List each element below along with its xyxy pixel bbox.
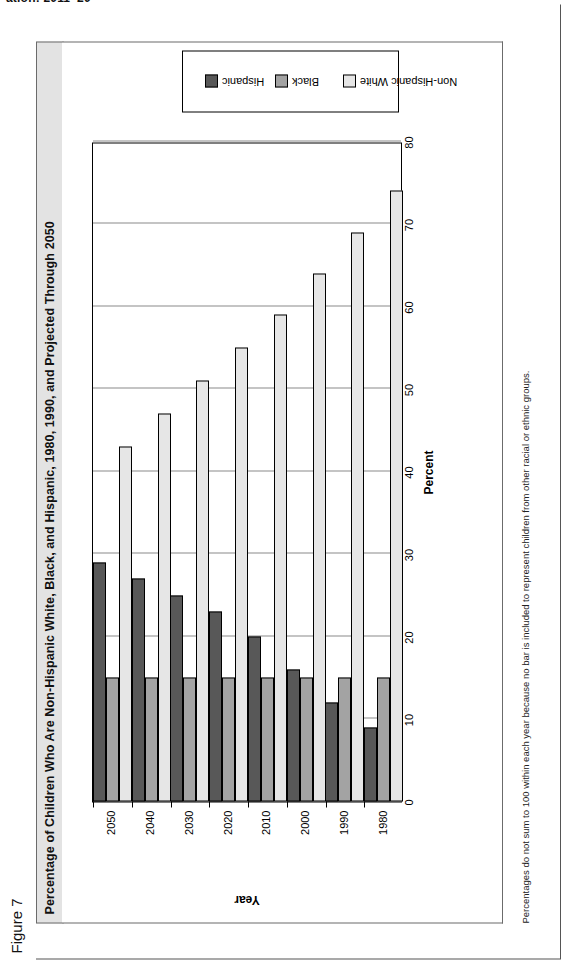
- x-tick-label: 50: [403, 383, 415, 395]
- page-rule-horizontal: [560, 4, 561, 959]
- bar: [261, 677, 274, 801]
- bar: [248, 636, 261, 801]
- legend-label: Hispanic: [222, 75, 264, 87]
- y-tick-label: 2010: [260, 810, 272, 834]
- x-tick-label: 40: [403, 466, 415, 478]
- y-axis-title: Year: [92, 890, 402, 908]
- chart-frame: Year 19801990200020102020203020402050 01…: [62, 41, 503, 923]
- bar: [300, 677, 313, 801]
- chart-legend: Non-Hispanic WhiteBlackHispanic: [182, 50, 399, 112]
- legend-swatch-2: [275, 75, 288, 88]
- x-axis-title: Percent: [422, 142, 436, 802]
- bar: [93, 562, 106, 801]
- y-tick-mark: [93, 801, 94, 807]
- legend-item: Black: [275, 51, 319, 111]
- gridline-x-80: [93, 140, 401, 141]
- bar: [377, 677, 390, 801]
- bar: [145, 677, 158, 801]
- y-axis-tick-labels: 19801990200020102020203020402050: [92, 806, 402, 862]
- y-tick-mark: [364, 801, 365, 807]
- legend-item: Hispanic: [205, 51, 264, 111]
- bar: [325, 702, 338, 801]
- bar: [287, 669, 300, 801]
- page-title: Percentage of Children Who Are Non-Hispa…: [43, 221, 57, 922]
- y-tick-mark: [132, 801, 133, 807]
- legend-label: Black: [292, 75, 319, 87]
- y-tick-mark: [287, 801, 288, 807]
- bar: [351, 232, 364, 801]
- gridline-x-70: [93, 223, 401, 224]
- y-tick-mark: [171, 801, 172, 807]
- y-tick-label: 2040: [144, 810, 156, 834]
- bar: [364, 727, 377, 801]
- bar: [235, 347, 248, 801]
- bar: [390, 191, 403, 802]
- y-tick-label: 2020: [222, 810, 234, 834]
- bar: [106, 677, 119, 801]
- bar: [183, 677, 196, 801]
- legend-swatch-1: [343, 75, 356, 88]
- bar: [158, 413, 171, 801]
- bar: [119, 446, 132, 801]
- y-tick-mark: [248, 801, 249, 807]
- y-tick-mark: [326, 801, 327, 807]
- x-tick-label: 60: [403, 301, 415, 313]
- legend-label: Non-Hispanic White: [360, 75, 457, 87]
- chart-title-banner: Percentage of Children Who Are Non-Hispa…: [36, 41, 64, 923]
- bar: [222, 677, 235, 801]
- bar: [274, 314, 287, 801]
- bar: [132, 578, 145, 801]
- x-tick-label: 0: [403, 799, 415, 805]
- x-tick-label: 20: [403, 631, 415, 643]
- y-tick-label: 2030: [183, 810, 195, 834]
- bar: [209, 611, 222, 801]
- bar: [313, 273, 326, 801]
- legend-item: Non-Hispanic White: [343, 51, 457, 111]
- page-rule-vertical: [36, 958, 560, 959]
- chart-footnote: Percentages do not sum to 100 within eac…: [520, 43, 531, 923]
- y-tick-label: 2000: [299, 810, 311, 834]
- plot-area: [92, 142, 402, 802]
- bar: [170, 595, 183, 801]
- figure-label: Figure 7: [8, 898, 25, 953]
- y-axis-title-text: Year: [234, 892, 259, 906]
- figure-page: Figure 7 Percentage of Children Who Are …: [0, 0, 562, 961]
- y-tick-mark: [209, 801, 210, 807]
- legend-swatch-3: [205, 75, 218, 88]
- x-tick-label: 80: [403, 136, 415, 148]
- x-tick-label: 70: [403, 218, 415, 230]
- y-tick-label: 2050: [105, 810, 117, 834]
- bar: [196, 380, 209, 801]
- x-tick-label: 10: [403, 713, 415, 725]
- bar: [338, 677, 351, 801]
- x-axis-tick-labels: 01020304050607080: [403, 142, 421, 802]
- y-tick-label: 1990: [338, 810, 350, 834]
- y-tick-label: 1980: [377, 810, 389, 834]
- x-tick-label: 30: [403, 548, 415, 560]
